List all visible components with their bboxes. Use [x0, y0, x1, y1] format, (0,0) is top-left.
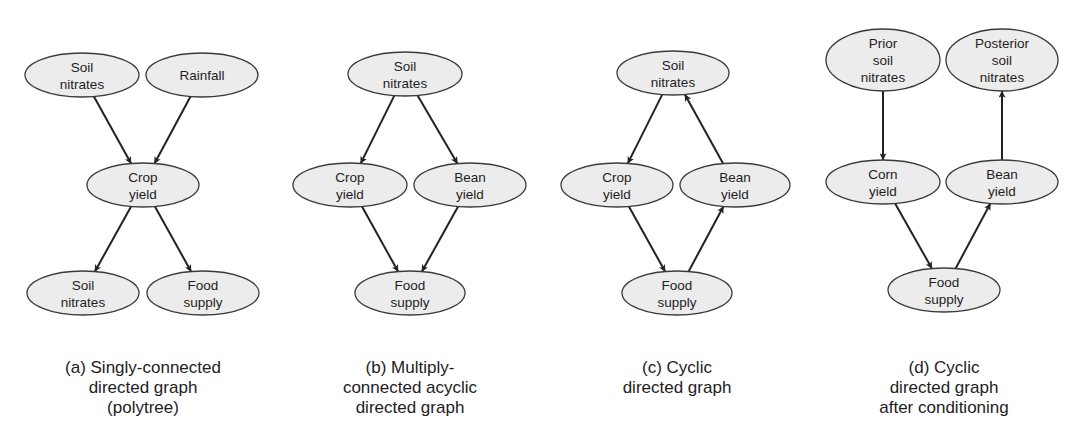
- node-label: yield: [336, 187, 364, 202]
- edge-arrow-a_soil_top-to-a_crop: [94, 97, 131, 164]
- caption-line: after conditioning: [814, 398, 1073, 418]
- node-label: Rainfall: [179, 68, 224, 83]
- node-label: nitrates: [980, 70, 1025, 85]
- edge-arrow-c_bean-to-c_soil: [685, 95, 723, 164]
- caption-line: connected acyclic: [280, 378, 540, 398]
- node-b_crop: Cropyield: [293, 163, 407, 207]
- edge-arrow-c_food-to-c_bean: [689, 207, 724, 272]
- edge-arrow-a_crop-to-a_soil_bottom: [95, 207, 131, 272]
- node-label: supply: [390, 295, 429, 310]
- caption-panel-a: (a) Singly-connected directed graph (pol…: [13, 358, 273, 418]
- node-a_soil_top: Soilnitrates: [25, 53, 139, 97]
- node-d_prior: Priorsoilnitrates: [826, 29, 940, 91]
- node-b_bean: Beanyield: [414, 163, 526, 207]
- node-label: Crop: [335, 170, 364, 185]
- caption-line: directed graph: [280, 398, 540, 418]
- caption-line: (d) Cyclic: [814, 358, 1073, 378]
- node-b_food: Foodsupply: [355, 271, 465, 315]
- node-c_bean: Beanyield: [680, 163, 790, 207]
- node-a_soil_bottom: Soilnitrates: [27, 271, 139, 315]
- node-c_crop: Cropyield: [561, 163, 673, 207]
- node-label: Bean: [454, 170, 486, 185]
- node-label: yield: [603, 187, 631, 202]
- caption-line: (a) Singly-connected: [13, 358, 273, 378]
- node-a_crop: Cropyield: [87, 163, 199, 207]
- node-label: soil: [992, 53, 1012, 68]
- edge-arrow-d_corn-to-d_food: [895, 204, 932, 269]
- node-label: supply: [924, 292, 963, 307]
- node-label: nitrates: [383, 76, 428, 91]
- node-label: supply: [657, 295, 696, 310]
- node-label: yield: [869, 184, 897, 199]
- node-label: Food: [395, 278, 426, 293]
- caption-line: (c) Cyclic: [547, 358, 807, 378]
- node-label: nitrates: [60, 77, 105, 92]
- caption-line: (b) Multiply-: [280, 358, 540, 378]
- node-label: yield: [721, 187, 749, 202]
- node-label: Food: [662, 278, 693, 293]
- edge-arrow-b_soil-to-b_bean: [418, 96, 458, 164]
- node-d_posterior: Posteriorsoilnitrates: [946, 29, 1058, 91]
- edge-arrow-b_bean-to-b_food: [422, 207, 458, 272]
- node-label: Soil: [394, 59, 417, 74]
- node-label: yield: [456, 187, 484, 202]
- node-a_food: Foodsupply: [147, 271, 259, 315]
- node-d_food: Foodsupply: [888, 268, 1000, 312]
- node-label: nitrates: [861, 70, 906, 85]
- edge-arrow-a_rainfall-to-a_crop: [155, 97, 191, 164]
- node-label: Soil: [72, 278, 95, 293]
- node-label: Corn: [868, 167, 897, 182]
- node-b_soil: Soilnitrates: [348, 52, 462, 96]
- node-label: supply: [183, 295, 222, 310]
- caption-line: directed graph: [547, 378, 807, 398]
- caption-line: (polytree): [13, 398, 273, 418]
- node-d_bean: Beanyield: [946, 160, 1058, 204]
- node-label: yield: [988, 184, 1016, 199]
- node-label: soil: [873, 53, 893, 68]
- node-c_food: Foodsupply: [622, 271, 732, 315]
- caption-line: directed graph: [814, 378, 1073, 398]
- edge-arrow-a_crop-to-a_food: [155, 207, 191, 272]
- node-label: Bean: [986, 167, 1018, 182]
- node-label: Food: [929, 275, 960, 290]
- node-label: Prior: [869, 36, 898, 51]
- node-d_corn: Cornyield: [826, 160, 940, 204]
- node-c_soil: Soilnitrates: [617, 51, 729, 95]
- node-label: Crop: [128, 170, 157, 185]
- node-label: Food: [188, 278, 219, 293]
- node-label: yield: [129, 187, 157, 202]
- edge-arrow-c_crop-to-c_food: [629, 207, 665, 272]
- caption-panel-b: (b) Multiply- connected acyclic directed…: [280, 358, 540, 418]
- nodes-layer: SoilnitratesRainfallCropyieldSoilnitrate…: [25, 29, 1058, 315]
- node-label: nitrates: [651, 75, 696, 90]
- node-label: nitrates: [61, 295, 106, 310]
- caption-panel-d: (d) Cyclic directed graph after conditio…: [814, 358, 1073, 418]
- edge-arrow-b_crop-to-b_food: [362, 207, 398, 272]
- caption-panel-c: (c) Cyclic directed graph: [547, 358, 807, 398]
- edge-arrow-c_soil-to-c_crop: [628, 95, 662, 164]
- edge-arrow-d_food-to-d_bean: [956, 204, 991, 269]
- node-label: Soil: [662, 58, 685, 73]
- node-label: Posterior: [975, 36, 1030, 51]
- node-label: Bean: [719, 170, 751, 185]
- node-a_rainfall: Rainfall: [146, 53, 258, 97]
- edge-arrow-b_soil-to-b_crop: [361, 96, 395, 164]
- caption-line: directed graph: [13, 378, 273, 398]
- node-label: Soil: [71, 60, 94, 75]
- node-label: Crop: [602, 170, 631, 185]
